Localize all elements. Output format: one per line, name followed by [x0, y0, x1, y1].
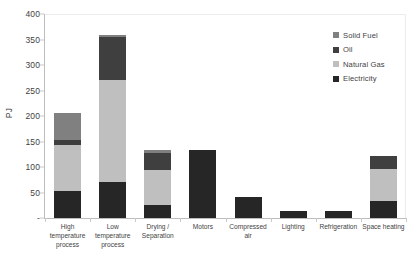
legend-swatch-icon: [333, 47, 339, 53]
y-tick-label: 50: [6, 188, 40, 198]
y-tick-label: 350: [6, 35, 40, 45]
x-axis-label-line: Low: [107, 223, 119, 230]
bar-high-temperature-process[interactable]: [54, 113, 81, 218]
chart-legend: Solid FuelOilNatural GasElectricity: [333, 28, 413, 86]
bar-segment-oil: [144, 153, 171, 170]
legend-label: Natural Gas: [343, 60, 385, 69]
bar-segment-electricity: [189, 150, 216, 218]
bar-segment-oil: [99, 37, 126, 80]
bar-lighting[interactable]: [280, 211, 307, 218]
y-tick-label: 100: [6, 162, 40, 172]
legend-swatch-icon: [333, 32, 339, 38]
x-axis-label-line: Refrigeration: [319, 223, 357, 230]
bar-segment-electricity: [280, 211, 307, 218]
x-axis-label-line: Lighting: [282, 223, 305, 230]
x-tick-mark: [406, 218, 407, 222]
x-axis-label-line: Space heating: [362, 223, 404, 230]
y-tick-label: 150: [6, 137, 40, 147]
x-tick-mark: [316, 218, 317, 222]
x-axis-label: Drying /Separation: [132, 222, 183, 240]
bar-compressed-air[interactable]: [235, 197, 262, 218]
bar-space-heating[interactable]: [370, 156, 397, 218]
x-axis-label: Space heating: [358, 222, 409, 231]
bar-segment-oil: [370, 156, 397, 169]
legend-item-oil[interactable]: Oil: [333, 43, 413, 58]
bar-motors[interactable]: [189, 150, 216, 218]
y-tick-label: 300: [6, 60, 40, 70]
x-axis-label: Lowtemperatureprocess: [87, 222, 138, 249]
x-tick-mark: [90, 218, 91, 222]
bar-segment-electricity: [235, 197, 262, 218]
y-axis-tick-labels: -50100150200250300350400: [4, 0, 40, 269]
legend-item-solid-fuel[interactable]: Solid Fuel: [333, 28, 413, 43]
bar-low-temperature-process[interactable]: [99, 35, 126, 218]
x-axis-label-line: process: [56, 241, 79, 248]
x-tick-mark: [45, 218, 46, 222]
bar-segment-electricity: [370, 201, 397, 218]
x-axis-label-line: Motors: [193, 223, 213, 230]
bar-segment-natural-gas: [144, 170, 171, 206]
x-axis-label-line: process: [101, 241, 124, 248]
bar-segment-natural-gas: [370, 169, 397, 202]
legend-label: Solid Fuel: [343, 31, 378, 40]
bar-segment-solid-fuel: [54, 113, 81, 140]
legend-swatch-icon: [333, 61, 339, 67]
bar-segment-electricity: [54, 191, 81, 218]
x-axis-label: Hightemperatureprocess: [42, 222, 93, 249]
y-tick-label: -: [6, 213, 40, 223]
x-axis-label-line: air: [244, 232, 251, 239]
x-axis-label: Compressedair: [223, 222, 274, 240]
x-axis-label: Lighting: [268, 222, 319, 231]
legend-label: Oil: [343, 45, 353, 54]
y-tick-label: 250: [6, 86, 40, 96]
x-axis-label-line: temperature: [50, 232, 86, 239]
bar-segment-electricity: [325, 211, 352, 218]
legend-swatch-icon: [333, 76, 339, 82]
bar-refrigeration[interactable]: [325, 211, 352, 218]
bar-segment-electricity: [144, 205, 171, 218]
bar-segment-electricity: [99, 182, 126, 218]
legend-label: Electricity: [343, 74, 377, 83]
x-tick-mark: [226, 218, 227, 222]
x-tick-mark: [135, 218, 136, 222]
legend-item-natural-gas[interactable]: Natural Gas: [333, 57, 413, 72]
x-axis-label-line: Drying /: [146, 223, 169, 230]
x-axis-label-line: Separation: [142, 232, 174, 239]
bar-drying-separation[interactable]: [144, 150, 171, 218]
legend-item-electricity[interactable]: Electricity: [333, 72, 413, 87]
x-axis-label: Refrigeration: [313, 222, 364, 231]
x-axis-label: Motors: [177, 222, 228, 231]
x-axis-label-line: Compressed: [229, 223, 266, 230]
stacked-bar-chart: PJ -50100150200250300350400 Hightemperat…: [0, 0, 417, 269]
x-axis-label-line: temperature: [95, 232, 131, 239]
bar-segment-natural-gas: [54, 145, 81, 191]
x-axis-labels: HightemperatureprocessLowtemperatureproc…: [45, 222, 406, 266]
bar-segment-natural-gas: [99, 80, 126, 182]
x-axis-label-line: High: [61, 223, 75, 230]
y-tick-label: 400: [6, 9, 40, 19]
x-tick-mark: [361, 218, 362, 222]
x-tick-mark: [180, 218, 181, 222]
y-tick-label: 200: [6, 111, 40, 121]
x-tick-mark: [271, 218, 272, 222]
